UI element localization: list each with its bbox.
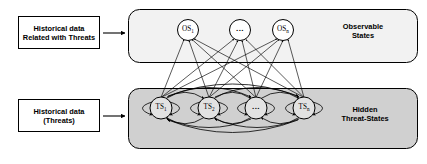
- node-os-n-label-sub: n: [286, 28, 289, 34]
- node-ts-mid-label: ...: [244, 102, 268, 112]
- node-os-mid-label: ...: [228, 24, 252, 34]
- node-os-1-label: OS1: [176, 25, 200, 35]
- box-observable-input-line2: Related with Threats: [18, 33, 100, 42]
- node-ts-mid-label-text: ...: [252, 102, 260, 111]
- box-threats-input-line1: Historical data: [18, 107, 100, 116]
- node-ts-2-label-text: TS: [204, 103, 212, 111]
- node-ts-2-label-sub: 2: [212, 106, 215, 112]
- node-os-mid-label-text: ...: [236, 24, 244, 33]
- figure-canvas: Historical data Related with Threats His…: [0, 0, 427, 164]
- node-os-1-label-text: OS: [182, 25, 191, 33]
- node-ts-n-label-sub: n: [307, 106, 310, 112]
- node-os-1-label-sub: 1: [191, 28, 194, 34]
- node-ts-2-label: TS2: [197, 103, 221, 113]
- hidden-region-label-line2: Threat-States: [330, 114, 400, 123]
- observable-region-label: Observable States: [332, 22, 394, 41]
- observable-region-label-line2: States: [332, 31, 394, 40]
- observable-region-label-line1: Observable: [332, 22, 394, 31]
- node-ts-1-label: TS1: [149, 103, 173, 113]
- node-os-n-label: OSn: [271, 25, 295, 35]
- node-ts-1-label-sub: 1: [164, 106, 167, 112]
- node-os-n-label-text: OS: [277, 25, 286, 33]
- hidden-region-label: Hidden Threat-States: [330, 105, 400, 124]
- hidden-region-label-line1: Hidden: [330, 105, 400, 114]
- box-observable-input-line1: Historical data: [18, 24, 100, 33]
- box-observable-input-label: Historical data Related with Threats: [18, 24, 100, 43]
- node-ts-n-label: TSn: [292, 103, 316, 113]
- box-threats-input-label: Historical data (Threats): [18, 107, 100, 126]
- node-ts-1-label-text: TS: [156, 103, 164, 111]
- node-ts-n-label-text: TS: [299, 103, 307, 111]
- box-threats-input-line2: (Threats): [18, 116, 100, 125]
